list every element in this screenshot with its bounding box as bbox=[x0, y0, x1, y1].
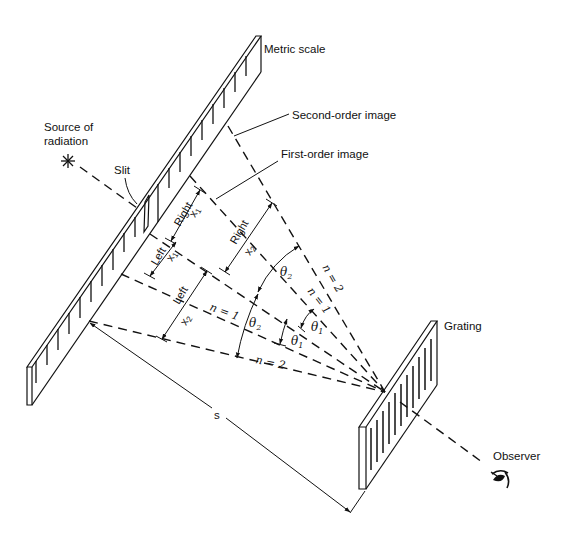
dimension-left-x2: Left x2 bbox=[156, 267, 212, 342]
source-label-line2: radiation bbox=[44, 135, 88, 147]
source-label-line1: Source of bbox=[44, 121, 94, 133]
eye-icon bbox=[491, 471, 509, 488]
dimension-right-x1: Right x1 bbox=[165, 186, 205, 244]
dimension-left-x1: Left x1 bbox=[144, 242, 181, 279]
angle-theta1-lower: θ1 bbox=[274, 319, 303, 350]
distance-label: s bbox=[214, 409, 220, 421]
dimension-right-x2: Right x2 bbox=[219, 199, 277, 275]
svg-text:θ2: θ2 bbox=[280, 265, 292, 281]
diffraction-rays bbox=[89, 126, 385, 392]
svg-text:Left: Left bbox=[170, 284, 190, 306]
metric-scale bbox=[27, 36, 261, 405]
grating: Grating bbox=[359, 320, 482, 489]
second-order-image-label: Second-order image bbox=[292, 109, 396, 121]
angle-theta1-upper: θ1 bbox=[298, 309, 323, 336]
order-label-upper-n2: n = 2 bbox=[319, 262, 345, 295]
slit-leader bbox=[125, 178, 137, 204]
first-order-leader bbox=[216, 161, 278, 199]
svg-text:θ2: θ2 bbox=[249, 316, 261, 332]
slit-opening bbox=[144, 195, 149, 232]
asterisk-star-icon bbox=[61, 154, 75, 168]
metric-scale-label: Metric scale bbox=[264, 43, 325, 55]
angle-theta2-lower: θ2 bbox=[237, 294, 261, 358]
ray-upper-n2 bbox=[228, 126, 385, 392]
grating-rulings bbox=[371, 339, 431, 470]
angle-theta2-upper: θ2 bbox=[258, 246, 299, 292]
first-order-image-label: First-order image bbox=[281, 148, 369, 160]
ray-upper-n1 bbox=[190, 176, 385, 392]
svg-text:x2: x2 bbox=[177, 312, 194, 328]
distance-s: s bbox=[90, 323, 365, 513]
scale-left-end bbox=[27, 367, 32, 405]
observer-line-of-sight bbox=[400, 402, 482, 462]
diffraction-grating-diagram: Source of radiation Slit Metric scale Se… bbox=[0, 0, 571, 543]
order-label-upper-n1: n = 1 bbox=[305, 285, 334, 317]
observer-label: Observer bbox=[493, 450, 540, 462]
grating-label: Grating bbox=[444, 320, 482, 332]
slit-label: Slit bbox=[114, 164, 131, 176]
second-order-leader bbox=[234, 114, 289, 136]
grating-left-end bbox=[359, 427, 366, 489]
order-label-lower-n2: n = 2 bbox=[254, 353, 286, 372]
observer: Observer bbox=[400, 402, 540, 488]
ray-lower-n1 bbox=[121, 274, 385, 392]
